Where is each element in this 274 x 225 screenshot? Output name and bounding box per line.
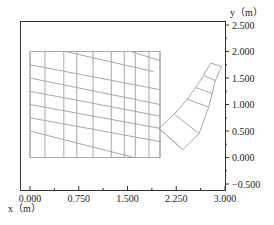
x-axis-ticks: 0.0000.7501.5002.2503.000 (19, 186, 237, 204)
y-tick-label: 2.000 (232, 46, 255, 57)
x-tick-label: 0.750 (68, 193, 91, 204)
x-tick-label: 2.250 (165, 193, 188, 204)
arm-cross-line (174, 114, 199, 134)
mesh-lines (30, 52, 222, 158)
y-tick-label: 1.000 (232, 99, 255, 110)
arm-inner-edge (159, 63, 211, 128)
y-tick-label: −0.500 (232, 179, 260, 190)
y-tick-label: 1.500 (232, 73, 255, 84)
mesh-chart: 0.0000.7501.5002.2503.000 2.5002.0001.50… (0, 0, 274, 225)
y-axis-title: y（m） (230, 7, 263, 18)
x-axis-title: x（m） (8, 203, 41, 214)
arm-cross-line (187, 99, 208, 107)
mesh-block-outline (30, 52, 160, 158)
mesh-sloped-line (30, 118, 160, 142)
y-axis-ticks: 2.5002.0001.5001.0000.5000.000−0.500 (225, 20, 260, 190)
arm-cross-line (159, 128, 183, 149)
mesh-sloped-line (30, 131, 134, 158)
plot-frame (21, 22, 226, 191)
arm-cross-line (211, 63, 222, 66)
mesh-sloped-line (30, 105, 160, 129)
y-tick-label: 0.500 (232, 126, 255, 137)
arm-cross-line (204, 75, 216, 80)
mesh-sloped-line (30, 91, 160, 116)
x-tick-label: 1.500 (116, 193, 139, 204)
y-tick-label: 0.000 (232, 152, 255, 163)
arm-cross-line (196, 88, 214, 94)
y-tick-label: 2.500 (232, 20, 255, 31)
mesh-sloped-line (30, 78, 160, 105)
x-tick-label: 3.000 (214, 193, 237, 204)
